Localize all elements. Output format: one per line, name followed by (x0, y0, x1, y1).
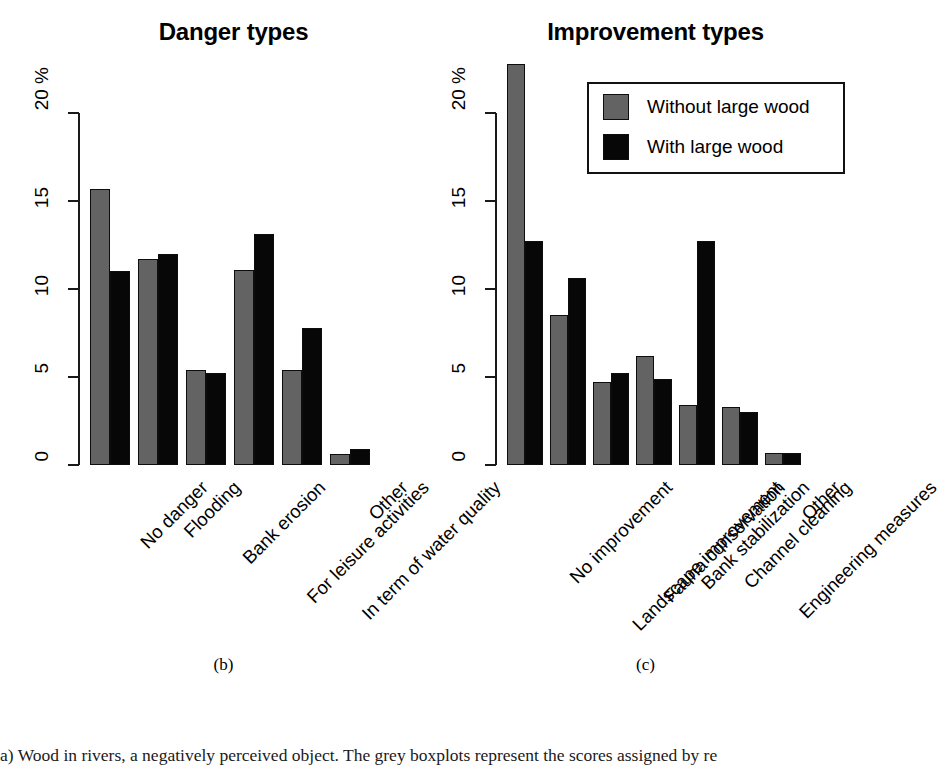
bar-with-large-wood (302, 328, 322, 465)
x-axis-label: Bank erosion (240, 478, 329, 567)
bar-without-large-wood (765, 453, 783, 465)
chart-legend: Without large wood With large wood (587, 82, 845, 174)
bar-without-large-wood (550, 315, 568, 465)
bar-group-container (80, 60, 378, 465)
bar-with-large-wood (206, 373, 226, 465)
bar-group (330, 60, 370, 465)
legend-item-with-large-wood: With large wood (603, 132, 783, 162)
bar-group (282, 60, 322, 465)
bar-group (90, 60, 130, 465)
bar-with-large-wood (697, 241, 715, 465)
chart-title-improvement-types: Improvement types (427, 18, 854, 46)
bar-with-large-wood (611, 373, 629, 465)
legend-label-without-large-wood: Without large wood (647, 96, 810, 118)
y-axis-tick-15 (485, 200, 496, 202)
legend-item-without-large-wood: Without large wood (603, 92, 810, 122)
bar-without-large-wood (679, 405, 697, 465)
bar-without-large-wood (507, 64, 525, 465)
bar-without-large-wood (722, 407, 740, 465)
bar-without-large-wood (234, 270, 254, 465)
bar-without-large-wood (186, 370, 206, 465)
x-axis-label: Other (799, 478, 845, 524)
bar-group (507, 60, 543, 465)
legend-swatch-black (603, 134, 629, 160)
chart-panel-danger-types: Danger types 05101520 % No dangerFloodin… (0, 0, 427, 700)
x-axis-label: Landscape improvement (629, 478, 785, 634)
y-axis-label-10: 10 (449, 275, 483, 296)
figure-area: Danger types 05101520 % No dangerFloodin… (0, 0, 854, 700)
y-axis-label-10: 10 (32, 275, 66, 296)
x-axis-label: Engineering measures (796, 478, 940, 622)
y-axis-tick-5 (68, 376, 79, 378)
bar-with-large-wood (525, 241, 543, 465)
x-axis-label: Bank stabilization (698, 478, 813, 593)
y-axis-tick-10 (68, 288, 79, 290)
chart-title-danger-types: Danger types (0, 18, 427, 46)
bar-group (186, 60, 226, 465)
y-axis-label-0: 0 (449, 451, 483, 462)
y-axis-tick-20 (68, 112, 79, 114)
legend-swatch-grey (603, 94, 629, 120)
bar-with-large-wood (783, 453, 801, 465)
bar-with-large-wood (158, 254, 178, 465)
bar-with-large-wood (350, 449, 370, 465)
panel-letter-c: (c) (427, 655, 854, 675)
x-axis-label: For leisure activities (304, 478, 433, 607)
bar-without-large-wood (282, 370, 302, 465)
x-axis-label: Flooding (181, 478, 244, 541)
plot-area-danger-types: 05101520 % (78, 60, 378, 465)
y-axis-label-5: 5 (32, 363, 66, 374)
legend-label-with-large-wood: With large wood (647, 136, 783, 158)
x-axis-label: Other (366, 478, 412, 524)
bar-without-large-wood (636, 356, 654, 465)
bar-without-large-wood (90, 189, 110, 465)
bar-group (550, 60, 586, 465)
bar-without-large-wood (330, 454, 350, 465)
x-axis-label: Channel cleaning (741, 478, 855, 592)
bar-with-large-wood (110, 271, 130, 465)
y-axis-tick-0 (485, 464, 496, 466)
x-axis-label: No danger (137, 478, 211, 552)
y-axis-tick-15 (68, 200, 79, 202)
y-axis-label-20: 20 % (449, 67, 483, 110)
bar-without-large-wood (138, 259, 158, 465)
bar-with-large-wood (568, 278, 586, 465)
x-axis-label: No improvement (567, 478, 676, 587)
y-axis-label-20: 20 % (32, 67, 66, 110)
bar-with-large-wood (254, 234, 274, 465)
bar-with-large-wood (654, 379, 672, 465)
bar-without-large-wood (593, 382, 611, 465)
chart-panel-improvement-types: Improvement types 05101520 % Without lar… (427, 0, 854, 700)
y-axis-label-5: 5 (449, 363, 483, 374)
figure-caption: a) Wood in rivers, a negatively perceive… (0, 745, 880, 766)
x-axis-label: Fauna conservation (661, 478, 789, 606)
panel-letter-b: (b) (0, 655, 427, 675)
y-axis-label-0: 0 (32, 451, 66, 462)
bar-with-large-wood (740, 412, 758, 465)
y-axis-tick-5 (485, 376, 496, 378)
y-axis-tick-0 (68, 464, 79, 466)
y-axis-tick-10 (485, 288, 496, 290)
y-axis-tick-20 (485, 112, 496, 114)
y-axis-label-15: 15 (32, 187, 66, 208)
bar-group (234, 60, 274, 465)
y-axis-label-15: 15 (449, 187, 483, 208)
bar-group (138, 60, 178, 465)
